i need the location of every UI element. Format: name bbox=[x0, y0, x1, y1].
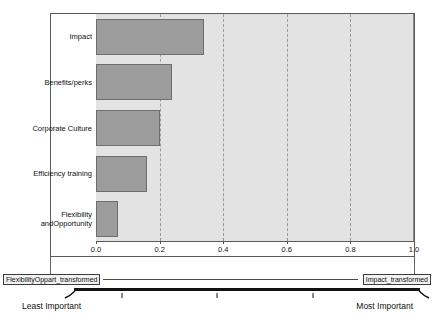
most-important-label: Most Important bbox=[356, 301, 413, 311]
bracket-left-hook-icon bbox=[65, 291, 75, 298]
bracket-right-hook-icon bbox=[419, 291, 429, 298]
scale-bracket-icon bbox=[0, 0, 433, 325]
importance-bar-chart: ImpactBenefits/perksCorporate CultureEff… bbox=[0, 0, 433, 325]
least-important-label: Least Important bbox=[22, 301, 81, 311]
